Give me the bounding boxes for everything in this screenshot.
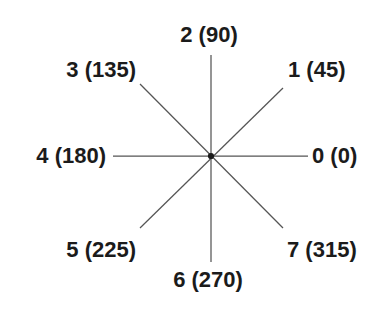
direction-label-east: 0 (0) (312, 145, 357, 167)
octant-diagram: 0 (0)1 (45)2 (90)3 (135)4 (180)5 (225)6 … (0, 0, 392, 311)
direction-label-west: 4 (180) (36, 145, 106, 167)
direction-label-northeast: 1 (45) (288, 59, 345, 81)
direction-label-northwest: 3 (135) (66, 59, 136, 81)
direction-label-south: 6 (270) (173, 269, 243, 291)
direction-label-southeast: 7 (315) (287, 239, 357, 261)
direction-label-southwest: 5 (225) (66, 239, 136, 261)
direction-label-north: 2 (90) (180, 24, 237, 46)
center-origin-dot (208, 153, 214, 159)
